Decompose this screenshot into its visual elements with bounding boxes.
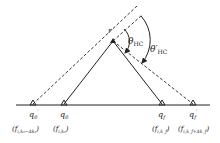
label-qf-prime: qf′ bbox=[189, 108, 198, 121]
solid-line-r-q0 bbox=[64, 41, 113, 104]
freq-q0: (fi,k₀) bbox=[53, 125, 69, 134]
freq-q0-prime: (fi,k₀−Δk₀) bbox=[12, 125, 39, 134]
freq-qf-prime: (fi,k_f+Δk_f) bbox=[178, 125, 210, 135]
theta-hc-label: θHC bbox=[128, 36, 144, 47]
apex-marker bbox=[110, 38, 116, 43]
label-q0: q0 bbox=[60, 110, 69, 120]
marker-qf-prime bbox=[190, 100, 196, 105]
label-q0-prime: q0′ bbox=[29, 108, 39, 120]
geometry-diagram: r θHC θ′HC q0′ q0 qf qf′ (fi,k₀−Δk₀) (fi… bbox=[0, 0, 220, 143]
label-qf: qf bbox=[158, 110, 166, 121]
freq-qf: (fi,k_f) bbox=[152, 125, 170, 135]
theta-hc-prime-label: θ′HC bbox=[150, 44, 168, 55]
dashed-line-q0prime-extended bbox=[33, 6, 137, 104]
apex-label: r bbox=[108, 26, 113, 35]
